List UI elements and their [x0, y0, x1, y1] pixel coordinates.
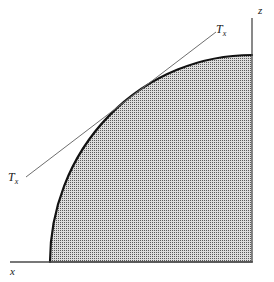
x-axis-label: x [10, 265, 15, 277]
shaded-region-fill [50, 55, 252, 262]
tangent-label-lower-base: T [8, 170, 15, 184]
figure-drawing [0, 0, 274, 282]
tangent-label-lower-subscript: x [15, 177, 19, 186]
x-axis-label-text: x [10, 265, 15, 277]
tangent-label-upper-subscript: x [223, 29, 227, 38]
z-axis-label: z [258, 4, 262, 16]
z-axis-label-text: z [258, 4, 262, 16]
tangent-label-lower: Tx [8, 170, 18, 186]
figure-canvas: z x Tx Tx [0, 0, 274, 282]
shaded-region-group [50, 55, 252, 262]
tangent-label-upper-base: T [216, 22, 223, 36]
tangent-label-upper: Tx [216, 22, 226, 38]
